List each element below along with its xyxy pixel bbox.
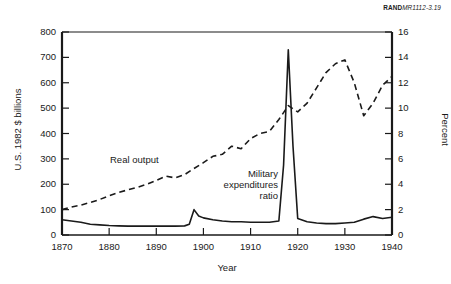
tick-label-x-1910: 1910 — [228, 242, 274, 252]
axis-ticks — [62, 32, 392, 235]
rand-document-code: MR1112-3.19 — [402, 4, 441, 11]
y-axis-right-title: Percent — [440, 70, 451, 190]
y-axis-left-title: U.S. 1982 $ billions — [12, 70, 23, 190]
tick-label-x-1900: 1900 — [180, 242, 226, 252]
tick-label-y-right-2: 2 — [398, 205, 432, 215]
tick-label-y-right-4: 4 — [398, 179, 432, 189]
tick-label-y-left-400: 400 — [22, 129, 56, 139]
annotation-military-expenditures-ratio: Military expenditures ratio — [186, 168, 278, 201]
tick-label-y-left-300: 300 — [22, 154, 56, 164]
tick-label-x-1920: 1920 — [275, 242, 321, 252]
tick-label-y-left-800: 800 — [22, 27, 56, 37]
tick-label-y-left-0: 0 — [22, 230, 56, 240]
tick-label-y-left-200: 200 — [22, 179, 56, 189]
tick-label-y-right-10: 10 — [398, 103, 432, 113]
tick-label-y-right-8: 8 — [398, 129, 432, 139]
tick-label-y-left-500: 500 — [22, 103, 56, 113]
tick-label-y-right-6: 6 — [398, 154, 432, 164]
rand-logo-text: RAND — [383, 4, 402, 11]
tick-label-x-1890: 1890 — [133, 242, 179, 252]
tick-label-y-right-16: 16 — [398, 27, 432, 37]
x-axis-title: Year — [62, 262, 392, 273]
tick-label-y-left-700: 700 — [22, 52, 56, 62]
tick-label-x-1940: 1940 — [369, 242, 415, 252]
plot-frame — [62, 32, 392, 235]
tick-label-y-left-600: 600 — [22, 78, 56, 88]
tick-label-x-1870: 1870 — [39, 242, 85, 252]
annotation-real-output: Real output — [110, 154, 159, 165]
rand-source-credit: RANDMR1112-3.19 — [383, 5, 441, 11]
tick-label-x-1880: 1880 — [86, 242, 132, 252]
tick-label-y-right-0: 0 — [398, 230, 432, 240]
tick-label-y-left-100: 100 — [22, 205, 56, 215]
tick-label-y-right-12: 12 — [398, 78, 432, 88]
tick-label-y-right-14: 14 — [398, 52, 432, 62]
tick-label-x-1930: 1930 — [322, 242, 368, 252]
